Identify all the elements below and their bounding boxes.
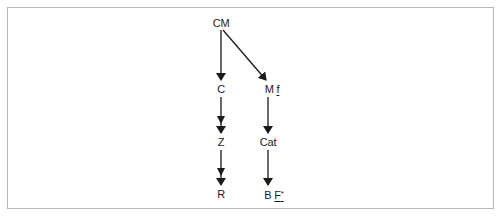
edge-cm-to-mf <box>223 30 266 80</box>
node-c-label: C <box>217 83 225 95</box>
node-mf-label: M <box>265 83 274 95</box>
diagram-edges <box>0 0 501 216</box>
node-cm-label: CM <box>213 17 230 29</box>
node-mf: M f <box>265 83 280 95</box>
edge-z-to-r <box>217 150 225 185</box>
node-cat: Cat <box>260 136 277 148</box>
arrowhead-icon <box>217 116 225 124</box>
node-bf-star: * <box>281 189 284 198</box>
node-c: C <box>217 83 225 95</box>
edge-c-to-z <box>217 97 225 133</box>
node-mf-subscript: f <box>276 83 279 95</box>
node-z-label: Z <box>218 136 225 148</box>
node-bf-label: B <box>264 189 271 201</box>
node-bf-functor: F* <box>274 189 283 201</box>
node-cm: CM <box>213 17 230 29</box>
node-cat-label: Cat <box>260 136 277 148</box>
node-bf: B F* <box>264 188 283 201</box>
node-z: Z <box>218 136 225 148</box>
node-r-label: R <box>217 188 225 200</box>
arrowhead-icon <box>217 168 225 176</box>
node-r: R <box>217 188 225 200</box>
